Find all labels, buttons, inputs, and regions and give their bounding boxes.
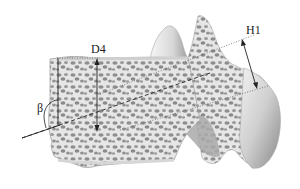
endplate-top [56,58,188,59]
h1-label: H1 [246,24,261,36]
d4-label: D4 [91,43,106,55]
beta-label: β [37,102,43,114]
vertebra-diagram: D4 H1 β [0,0,300,189]
spinous-process [240,68,281,168]
vertebral-body [49,57,200,168]
